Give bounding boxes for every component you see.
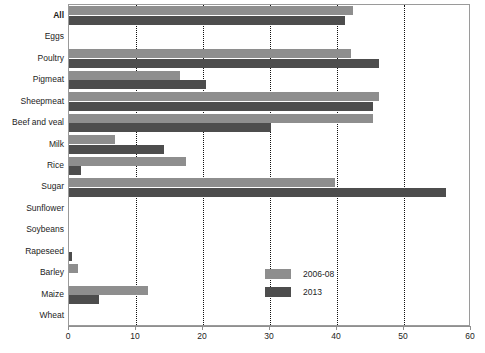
x-tick-label-60: 60 xyxy=(465,331,474,342)
bar-sugar-2006-08 xyxy=(69,178,335,187)
x-tick-label-20: 20 xyxy=(197,331,206,342)
bar-pigmeat-2006-08 xyxy=(69,71,180,80)
category-label-sunflower: Sunflower xyxy=(0,203,64,213)
x-tick-30 xyxy=(269,326,270,330)
bar-chart: AllEggsPoultryPigmeatSheepmeatBeef and v… xyxy=(0,0,485,353)
bar-row xyxy=(69,5,469,26)
category-axis-labels: AllEggsPoultryPigmeatSheepmeatBeef and v… xyxy=(0,4,64,326)
category-label-pigmeat: Pigmeat xyxy=(0,74,64,84)
bar-rice-2013 xyxy=(69,166,81,175)
bar-maize-2006-08 xyxy=(69,286,148,295)
category-label-rapeseed: Rapeseed xyxy=(0,246,64,256)
bar-poultry-2006-08 xyxy=(69,49,351,58)
category-label-soybeans: Soybeans xyxy=(0,224,64,234)
bar-sheepmeat-2006-08 xyxy=(69,92,379,101)
legend-swatch-icon xyxy=(265,287,291,297)
bar-all-2006-08 xyxy=(69,6,353,15)
bar-all-2013 xyxy=(69,16,345,25)
category-label-wheat: Wheat xyxy=(0,310,64,320)
bar-row xyxy=(69,241,469,262)
bar-row xyxy=(69,198,469,219)
x-tick-label-40: 40 xyxy=(331,331,340,342)
x-tick-40 xyxy=(336,326,337,330)
bar-pigmeat-2013 xyxy=(69,80,206,89)
bar-row xyxy=(69,112,469,133)
bar-milk-2013 xyxy=(69,145,164,154)
category-label-eggs: Eggs xyxy=(0,31,64,41)
x-tick-label-0: 0 xyxy=(66,331,71,342)
bar-barley-2006-08 xyxy=(69,264,78,273)
bar-sheepmeat-2013 xyxy=(69,102,373,111)
x-tick-label-10: 10 xyxy=(130,331,139,342)
x-tick-10 xyxy=(135,326,136,330)
x-tick-20 xyxy=(202,326,203,330)
bar-beef-and-veal-2013 xyxy=(69,123,271,132)
bar-row xyxy=(69,69,469,90)
category-label-milk: Milk xyxy=(0,139,64,149)
bar-sugar-2013 xyxy=(69,188,446,197)
bar-row xyxy=(69,48,469,69)
category-label-barley: Barley xyxy=(0,267,64,277)
legend-label: 2006-08 xyxy=(303,268,334,280)
bar-row xyxy=(69,155,469,176)
bar-maize-2013 xyxy=(69,295,99,304)
bar-row xyxy=(69,306,469,326)
category-label-rice: Rice xyxy=(0,160,64,170)
category-label-maize: Maize xyxy=(0,289,64,299)
legend-label: 2013 xyxy=(303,286,322,298)
category-label-sheepmeat: Sheepmeat xyxy=(0,96,64,106)
x-tick-label-50: 50 xyxy=(398,331,407,342)
legend-swatch-icon xyxy=(265,269,291,279)
category-label-sugar: Sugar xyxy=(0,181,64,191)
bar-poultry-2013 xyxy=(69,59,379,68)
bar-row xyxy=(69,220,469,241)
bar-row xyxy=(69,26,469,47)
bar-row xyxy=(69,134,469,155)
bar-row xyxy=(69,177,469,198)
category-label-poultry: Poultry xyxy=(0,53,64,63)
x-tick-0 xyxy=(68,326,69,330)
category-label-all: All xyxy=(0,10,64,20)
category-label-beef-and-veal: Beef and veal xyxy=(0,117,64,127)
bar-rapeseed-2013 xyxy=(69,252,72,261)
x-tick-60 xyxy=(470,326,471,330)
x-tick-50 xyxy=(403,326,404,330)
bar-rice-2006-08 xyxy=(69,157,186,166)
bar-beef-and-veal-2006-08 xyxy=(69,114,373,123)
bar-milk-2006-08 xyxy=(69,135,115,144)
bar-row xyxy=(69,91,469,112)
x-tick-label-30: 30 xyxy=(264,331,273,342)
